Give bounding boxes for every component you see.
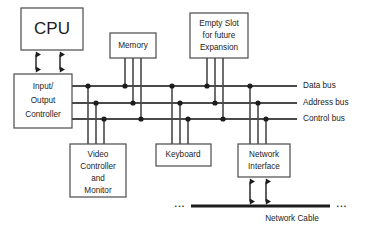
network-interface-bus-connections [250, 86, 266, 144]
keyboard-block: Keyboard [156, 144, 211, 166]
video-controller-label-line4: Monitor [84, 186, 112, 195]
junction-dot [85, 83, 90, 88]
bus-labels: Data bus Address bus Control bus [303, 81, 349, 123]
junction-dot [122, 83, 127, 88]
keyboard-bus-connections [172, 86, 188, 144]
network-interface-block: Network Interface [238, 144, 290, 177]
computer-architecture-diagram: CPU Input/ Output Controller Memory Empt… [0, 0, 371, 230]
video-controller-bus-connections [88, 86, 104, 144]
network-cable-arrows [250, 182, 266, 202]
network-interface-label-line2: Interface [248, 162, 280, 171]
cpu-block: CPU [21, 8, 83, 50]
empty-slot-label-line2: for future [203, 31, 236, 40]
network-interface-label-line1: Network [249, 150, 280, 159]
video-controller-label-line2: Controller [80, 162, 116, 171]
memory-bus-connections [125, 58, 141, 119]
junction-dot [177, 100, 182, 105]
junction-dot [204, 83, 209, 88]
memory-label: Memory [118, 41, 148, 50]
junction-dot [247, 83, 252, 88]
empty-slot-bus-connections [207, 58, 223, 119]
bus-group [72, 86, 297, 119]
empty-slot-label-line1: Empty Slot [199, 19, 239, 28]
cpu-io-arrows [36, 55, 60, 70]
junction-dot [169, 83, 174, 88]
video-controller-label-line1: Video [88, 150, 109, 159]
network-cable-group: ... ... Network Cable [174, 199, 347, 223]
address-bus-label: Address bus [303, 98, 349, 107]
junction-dot [255, 100, 260, 105]
io-controller-block: Input/ Output Controller [14, 74, 72, 128]
junction-dot [185, 116, 190, 121]
cpu-label: CPU [34, 19, 70, 38]
junction-dot [130, 100, 135, 105]
empty-slot-label-line3: Expansion [200, 43, 239, 52]
data-bus-label: Data bus [303, 81, 336, 90]
junction-dot [212, 100, 217, 105]
control-bus-label: Control bus [303, 114, 345, 123]
network-cable-left-ellipsis: ... [174, 199, 185, 209]
network-cable-label: Network Cable [265, 214, 319, 223]
keyboard-label: Keyboard [165, 150, 200, 159]
network-cable-right-ellipsis: ... [336, 199, 347, 209]
video-controller-block: Video Controller and Monitor [70, 144, 126, 197]
memory-block: Memory [110, 33, 156, 58]
junction-dot [220, 116, 225, 121]
diagram-canvas: CPU Input/ Output Controller Memory Empt… [0, 0, 371, 230]
junction-dot [138, 116, 143, 121]
video-controller-label-line3: and [91, 174, 105, 183]
junction-dot [93, 100, 98, 105]
junction-dot [263, 116, 268, 121]
junction-dot [101, 116, 106, 121]
network-interface-box [238, 144, 290, 177]
empty-slot-block: Empty Slot for future Expansion [190, 13, 248, 58]
io-controller-label-line2: Output [31, 96, 56, 105]
io-controller-label-line3: Controller [25, 110, 61, 119]
io-controller-label-line1: Input/ [33, 82, 54, 91]
